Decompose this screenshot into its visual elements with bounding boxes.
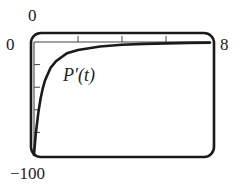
derivative-curve — [34, 43, 210, 155]
x-ticks — [78, 36, 166, 42]
x-max-label: 8 — [220, 36, 229, 53]
y-min-label: −100 — [10, 165, 45, 182]
y-max-label: 0 — [6, 36, 15, 53]
curve-label: P′(t) — [63, 66, 95, 84]
window-frame — [31, 33, 214, 157]
x-min-label: 0 — [28, 7, 37, 24]
